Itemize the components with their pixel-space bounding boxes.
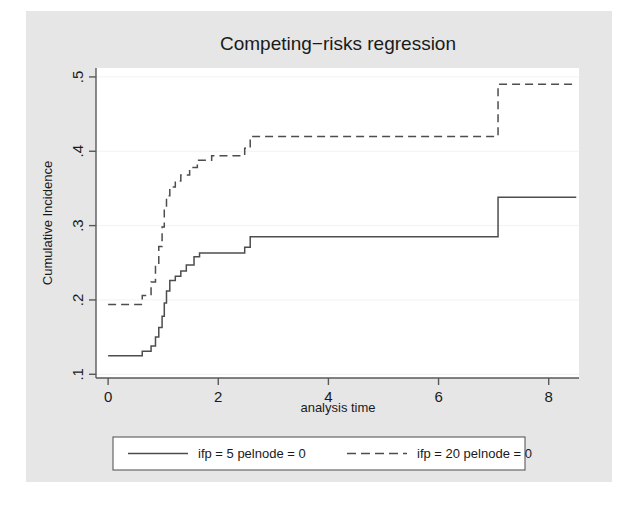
y-axis-ticks: [89, 77, 96, 374]
x-axis-title: analysis time: [300, 400, 375, 415]
y-axis-tick-label: .1: [69, 368, 86, 381]
y-axis-title: Cumulative Incidence: [40, 161, 55, 285]
legend-label-series-1: ifp = 5 pelnode = 0: [198, 446, 306, 461]
x-axis-tick-label: 6: [434, 388, 442, 405]
y-axis-tick-label: .4: [69, 145, 86, 158]
x-axis-tick-label: 8: [545, 388, 553, 405]
legend: ifp = 5 pelnode = 0 ifp = 20 pelnode = 0: [113, 437, 532, 470]
y-axis-tick-label: .3: [69, 219, 86, 232]
legend-label-series-2: ifp = 20 pelnode = 0: [417, 446, 532, 461]
x-axis-ticks: [108, 378, 549, 385]
figure-root: .1.2.3.4.5 02468 Competing−risks regress…: [0, 0, 639, 505]
chart-title: Competing−risks regression: [220, 33, 456, 54]
y-axis-tick-label: .2: [69, 294, 86, 307]
y-axis-tick-label: .5: [69, 71, 86, 84]
y-axis-tick-labels: .1.2.3.4.5: [69, 71, 86, 381]
competing-risks-chart: .1.2.3.4.5 02468 Competing−risks regress…: [0, 0, 639, 505]
x-axis-tick-label: 0: [104, 388, 112, 405]
x-axis-tick-label: 2: [214, 388, 222, 405]
plot-area: [96, 68, 579, 378]
